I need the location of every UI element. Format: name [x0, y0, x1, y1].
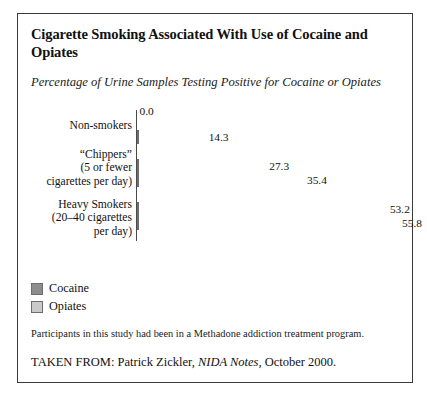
legend-swatch-icon — [31, 283, 43, 295]
bar-fill — [137, 202, 139, 216]
figure-source: TAKEN FROM: Patrick Zickler, NIDA Notes,… — [31, 355, 399, 371]
figure-container: Cigarette Smoking Associated With Use of… — [17, 13, 413, 383]
figure-note: Participants in this study had been in a… — [31, 327, 399, 340]
bar-fill — [137, 159, 139, 173]
bar-cocaine: 0.0 — [137, 116, 138, 130]
chart-legend: CocaineOpiates — [31, 282, 89, 318]
bar-opiates: 14.3 — [137, 130, 204, 144]
bar-fill — [137, 173, 139, 187]
bar-value-label: 14.3 — [204, 131, 229, 143]
legend-label: Opiates — [49, 299, 86, 314]
bar-opiates: 35.4 — [137, 173, 302, 187]
bar-value-label: 27.3 — [264, 160, 289, 172]
figure-title: Cigarette Smoking Associated With Use of… — [31, 25, 399, 62]
bar-cocaine: 53.2 — [137, 202, 385, 216]
bar-group-label: “Chippers” (5 or fewer cigarettes per da… — [0, 148, 132, 188]
legend-item-opiates: Opiates — [31, 300, 89, 313]
bar-fill — [137, 130, 139, 144]
bar-value-label: 55.8 — [397, 217, 422, 229]
bar-cocaine: 27.3 — [137, 159, 264, 173]
figure-subtitle: Percentage of Urine Samples Testing Posi… — [31, 74, 399, 90]
legend-item-cocaine: Cocaine — [31, 282, 89, 295]
bar-value-label: 0.0 — [138, 105, 154, 117]
source-prefix: TAKEN FROM: Patrick Zickler, — [31, 355, 198, 369]
bar-value-label: 35.4 — [302, 174, 327, 186]
bar-chart: Non-smokers0.014.3“Chippers” (5 or fewer… — [31, 110, 399, 245]
legend-swatch-icon — [31, 301, 43, 313]
bar-opiates: 55.8 — [137, 216, 397, 230]
bar-group-label: Heavy Smokers (20–40 cigarettes per day) — [0, 198, 132, 238]
bar-group-label: Non-smokers — [0, 119, 132, 132]
source-suffix: , October 2000. — [258, 355, 336, 369]
bar-value-label: 53.2 — [385, 203, 410, 215]
bar-fill — [137, 216, 139, 230]
source-publication: NIDA Notes — [198, 355, 259, 369]
legend-label: Cocaine — [49, 281, 89, 296]
